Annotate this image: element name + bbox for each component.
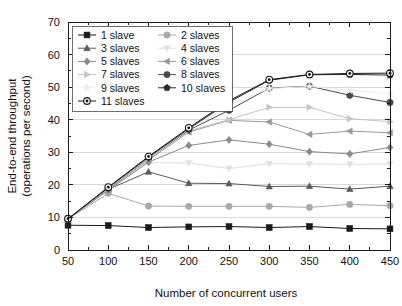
data-point-marker <box>346 128 352 134</box>
x-tick-label: 300 <box>260 255 278 267</box>
data-point-marker <box>226 136 232 143</box>
data-point-marker <box>346 70 353 77</box>
y-tick-label: 40 <box>48 114 60 126</box>
chart-legend: 1 slave3 slaves5 slaves7 slaves9 slaves1… <box>72 26 232 111</box>
legend-marker-sample <box>164 32 170 38</box>
legend-item-label: 10 slaves <box>181 82 225 94</box>
x-tick-label: 450 <box>381 255 399 267</box>
data-point-marker <box>266 76 273 83</box>
y-tick-label: 10 <box>48 211 60 223</box>
y-tick-label: 20 <box>48 179 60 191</box>
data-point-marker <box>306 131 312 137</box>
legend-item-label: 9 slaves <box>101 82 140 94</box>
y-tick-label: 60 <box>48 49 60 61</box>
series-line <box>68 107 390 219</box>
data-point-marker <box>306 148 312 155</box>
series-1-slave <box>65 222 393 231</box>
data-point-marker <box>347 201 353 207</box>
legend-item-label: 4 slaves <box>181 42 220 54</box>
legend-item-label: 11 slaves <box>101 95 145 107</box>
data-point-marker <box>306 204 312 210</box>
y-tick-label: 0 <box>54 244 60 256</box>
data-point-marker <box>307 104 313 110</box>
chart-container: 0102030405060705010015020025030035040045… <box>0 0 402 306</box>
data-point-marker <box>186 224 192 230</box>
data-point-marker <box>105 184 112 191</box>
y-tick-label: 30 <box>48 146 60 158</box>
data-point-marker <box>266 203 272 209</box>
x-tick-label: 250 <box>220 255 238 267</box>
x-tick-label: 150 <box>139 255 157 267</box>
legend-item-label: 3 slaves <box>101 42 140 54</box>
x-tick-label: 350 <box>300 255 318 267</box>
data-point-marker <box>185 125 192 132</box>
data-point-marker <box>226 203 232 209</box>
legend-marker-sample <box>84 98 91 105</box>
throughput-line-chart: 0102030405060705010015020025030035040045… <box>0 0 402 306</box>
legend-item-label: 6 slaves <box>181 55 220 67</box>
data-point-marker <box>267 104 273 110</box>
y-tick-label: 70 <box>48 16 60 28</box>
legend-item-label: 1 slave <box>101 29 134 41</box>
data-point-marker <box>307 224 313 230</box>
data-point-marker <box>226 166 232 172</box>
data-point-marker <box>347 226 353 232</box>
x-tick-label: 400 <box>341 255 359 267</box>
legend-item-label: 5 slaves <box>101 55 140 67</box>
legend-item-label: 7 slaves <box>101 68 140 80</box>
data-point-marker <box>306 71 313 78</box>
y-tick-label: 50 <box>48 81 60 93</box>
y-axis-title-line1: End-to-end throughput <box>6 78 18 194</box>
x-axis-title: Number of concurrent users <box>155 287 298 299</box>
data-point-marker <box>266 225 272 231</box>
data-point-marker <box>186 203 192 209</box>
legend-item-label: 2 slaves <box>181 29 220 41</box>
data-point-marker <box>145 153 152 160</box>
data-point-marker <box>186 142 192 149</box>
data-point-marker <box>105 223 111 229</box>
data-point-marker <box>145 203 151 209</box>
x-tick-label: 100 <box>99 255 117 267</box>
data-point-marker <box>226 224 232 230</box>
data-point-marker <box>347 116 353 122</box>
legend-marker-sample <box>84 32 90 38</box>
data-point-marker <box>266 141 272 148</box>
x-tick-label: 50 <box>62 255 74 267</box>
x-tick-label: 200 <box>180 255 198 267</box>
data-point-marker <box>347 150 353 157</box>
y-axis-title-line2: (operations per second) <box>20 75 32 197</box>
series-4-slaves <box>65 160 393 222</box>
legend-marker-sample <box>164 71 170 77</box>
data-point-marker <box>146 225 152 231</box>
legend-item-label: 8 slaves <box>181 68 220 80</box>
data-point-marker <box>145 168 151 174</box>
